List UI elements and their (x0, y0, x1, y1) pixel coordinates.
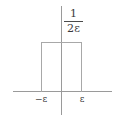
boxcar-function-figure: 1 2ε −ε ε (0, 0, 124, 128)
fraction-denominator: 2ε (64, 23, 83, 35)
pulse-rectangle (41, 42, 82, 92)
pulse-height-label: 1 2ε (64, 8, 83, 34)
x-tick-label-positive-epsilon: ε (72, 95, 92, 104)
fraction-numerator: 1 (64, 8, 83, 20)
x-tick-label-negative-epsilon: −ε (31, 95, 51, 104)
